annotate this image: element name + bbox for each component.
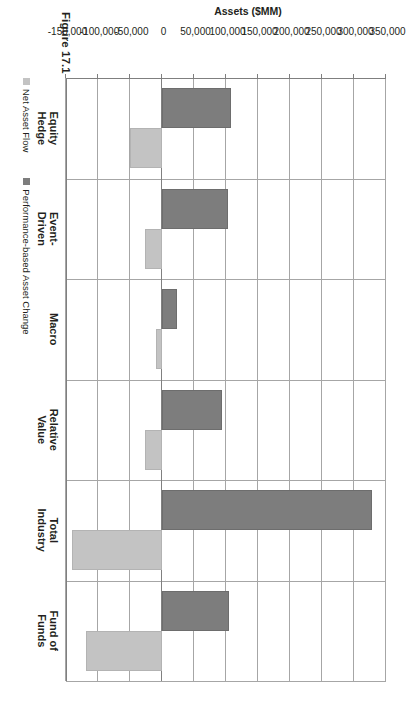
category-tick bbox=[161, 279, 162, 284]
category-label-line: Industry bbox=[35, 480, 47, 581]
category-tick bbox=[161, 581, 162, 586]
legend-swatch-icon bbox=[23, 78, 30, 85]
category-label-line: Hedge bbox=[35, 78, 47, 179]
category-label-line: Fund of bbox=[48, 581, 60, 682]
category-label-line: Equity bbox=[48, 78, 60, 179]
bar bbox=[72, 530, 162, 570]
category-label-line: Relative bbox=[48, 380, 60, 481]
bar bbox=[162, 390, 222, 430]
category-label-line: Funds bbox=[35, 581, 47, 682]
value-gridline bbox=[97, 78, 98, 681]
category-label-line: Driven bbox=[35, 179, 47, 280]
bar bbox=[162, 591, 229, 631]
figure-caption: Figure 17.1 bbox=[60, 12, 72, 74]
gridline bbox=[66, 179, 386, 180]
value-gridline bbox=[257, 78, 258, 681]
legend-swatch-icon bbox=[23, 178, 30, 185]
value-gridline bbox=[129, 78, 130, 681]
gridline bbox=[66, 681, 386, 682]
axis-baseline bbox=[66, 78, 67, 681]
plot-area bbox=[66, 78, 386, 681]
category-label: RelativeValue bbox=[35, 380, 60, 481]
gridline bbox=[66, 380, 386, 381]
value-gridline bbox=[289, 78, 290, 681]
category-label-line: Total bbox=[48, 480, 60, 581]
bar bbox=[162, 88, 231, 128]
bar bbox=[162, 289, 177, 329]
gridline bbox=[66, 279, 386, 280]
bar bbox=[162, 189, 228, 229]
bar bbox=[130, 128, 162, 168]
bar bbox=[156, 329, 162, 369]
value-gridline bbox=[385, 78, 386, 681]
bar bbox=[162, 490, 372, 530]
category-tick bbox=[161, 480, 162, 485]
legend-item: Performance-based Asset Change bbox=[21, 178, 32, 334]
bar bbox=[86, 631, 162, 671]
category-label: Macro bbox=[48, 279, 60, 380]
legend-label: Performance-based Asset Change bbox=[21, 189, 32, 334]
bar bbox=[145, 430, 162, 470]
category-label: TotalIndustry bbox=[35, 480, 60, 581]
category-label-line: Macro bbox=[48, 279, 60, 380]
legend-item: Net Asset Flow bbox=[21, 78, 32, 152]
category-label: EquityHedge bbox=[35, 78, 60, 179]
chart-legend: Net Asset FlowPerformance-based Asset Ch… bbox=[21, 78, 32, 335]
gridline bbox=[66, 480, 386, 481]
gridline bbox=[66, 581, 386, 582]
category-label-line: Value bbox=[35, 380, 47, 481]
value-gridline bbox=[321, 78, 322, 681]
value-axis-title: Assets ($MM) bbox=[188, 5, 308, 17]
category-label: Event-Driven bbox=[35, 179, 60, 280]
category-label-line: Event- bbox=[48, 179, 60, 280]
category-tick bbox=[161, 380, 162, 385]
category-label: Fund ofFunds bbox=[35, 581, 60, 682]
category-tick bbox=[161, 179, 162, 184]
axis-spine bbox=[66, 78, 386, 79]
bar bbox=[145, 229, 162, 269]
legend-label: Net Asset Flow bbox=[21, 89, 32, 152]
value-gridline bbox=[353, 78, 354, 681]
